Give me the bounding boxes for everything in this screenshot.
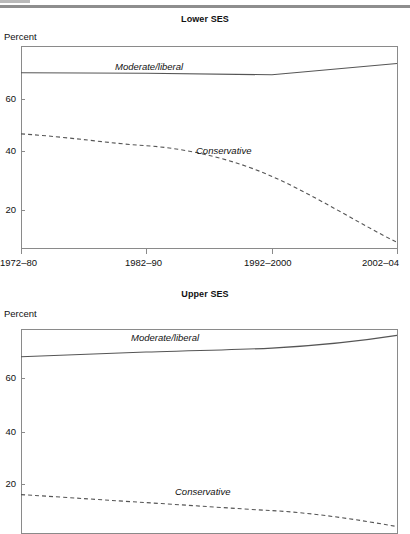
series-annotation-moderate-liberal-upper-ses: Moderate/liberal — [131, 332, 199, 343]
x-tick-label-2002-04-lower-ses: 2002–04 — [362, 257, 399, 268]
series-annotation-conservative-lower-ses: Conservative — [196, 145, 251, 156]
x-tick-mark-1972-80-lower-ses — [21, 249, 22, 254]
series-line-moderate-liberal-lower-ses — [21, 64, 397, 75]
x-tick-mark-2002-04-lower-ses — [397, 249, 398, 254]
panel-upper-ses: Upper SES Percent 60 40 20 Moderate/libe… — [0, 275, 410, 528]
series-annotation-conservative-upper-ses: Conservative — [175, 486, 230, 497]
x-tick-label-1992-2000-lower-ses: 1992–2000 — [244, 257, 292, 268]
series-line-moderate-liberal-upper-ses — [21, 335, 397, 356]
x-tick-mark-1982-90-lower-ses — [146, 249, 147, 254]
x-tick-mark-1992-2000-lower-ses — [272, 249, 273, 254]
panel-lower-ses: Lower SES Percent 60 40 20 Moderate/libe… — [0, 0, 410, 275]
series-line-conservative-upper-ses — [21, 495, 397, 527]
x-tick-label-1972-80-lower-ses: 1972–80 — [0, 257, 37, 268]
x-tick-label-1982-90-lower-ses: 1982–90 — [125, 257, 162, 268]
series-annotation-moderate-liberal-lower-ses: Moderate/liberal — [115, 61, 183, 72]
series-layer-lower-ses — [0, 0, 410, 275]
